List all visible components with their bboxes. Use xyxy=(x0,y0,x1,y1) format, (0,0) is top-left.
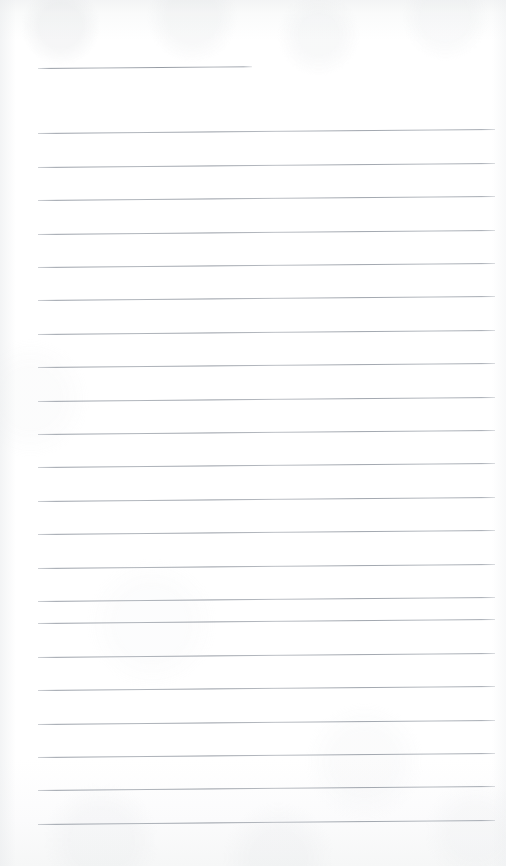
ruled-line xyxy=(38,330,495,335)
ruled-line xyxy=(38,363,495,368)
ruled-line xyxy=(38,163,495,168)
ruled-line xyxy=(38,619,495,624)
ruled-line xyxy=(38,720,495,725)
ruled-line xyxy=(38,463,495,468)
ruled-line xyxy=(38,296,495,301)
ruled-line xyxy=(38,653,495,658)
scanned-page xyxy=(0,0,506,866)
ruled-line xyxy=(38,597,495,602)
ruled-line xyxy=(38,129,495,134)
ruled-line xyxy=(38,430,495,435)
ruled-line xyxy=(38,66,252,69)
ruled-line xyxy=(38,497,495,502)
ruled-line xyxy=(38,786,495,791)
ruled-line xyxy=(38,196,495,201)
ruled-lines-group xyxy=(0,0,506,866)
ruled-line xyxy=(38,686,495,691)
ruled-line xyxy=(38,263,495,268)
ruled-line xyxy=(38,230,495,235)
ruled-line xyxy=(38,530,495,535)
ruled-line xyxy=(38,820,495,825)
ruled-line xyxy=(38,564,495,569)
ruled-line xyxy=(38,753,495,758)
ruled-line xyxy=(38,397,495,402)
